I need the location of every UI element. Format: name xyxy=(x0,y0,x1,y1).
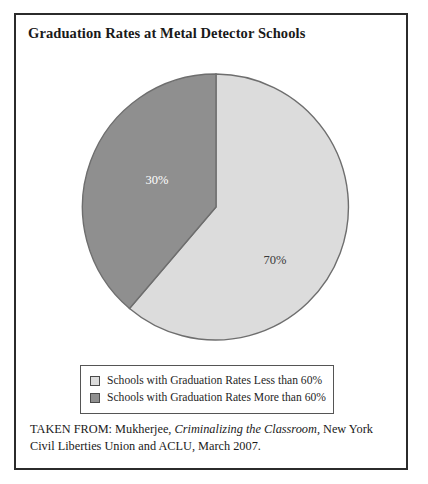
pie-chart-svg: 30% 70% xyxy=(81,72,351,342)
legend-label-less-than-60: Schools with Graduation Rates Less than … xyxy=(107,372,322,389)
source-citation: TAKEN FROM: Mukherjee, Criminalizing the… xyxy=(30,421,394,454)
figure-frame: Graduation Rates at Metal Detector Schoo… xyxy=(14,13,408,470)
pie-value-label-70: 70% xyxy=(264,253,287,267)
legend-swatch-dark-icon xyxy=(90,393,100,403)
legend: Schools with Graduation Rates Less than … xyxy=(80,365,334,414)
pie-chart-area: 30% 70% xyxy=(16,59,406,344)
legend-swatch-light-icon xyxy=(90,376,100,386)
pie-value-label-30: 30% xyxy=(146,173,169,187)
source-book-title: Criminalizing the Classroom xyxy=(175,422,317,436)
source-prefix: TAKEN FROM: Mukherjee, xyxy=(30,422,175,436)
legend-label-more-than-60: Schools with Graduation Rates More than … xyxy=(107,389,326,406)
chart-title: Graduation Rates at Metal Detector Schoo… xyxy=(28,25,305,42)
legend-item-less-than-60: Schools with Graduation Rates Less than … xyxy=(90,372,324,389)
legend-item-more-than-60: Schools with Graduation Rates More than … xyxy=(90,389,324,406)
